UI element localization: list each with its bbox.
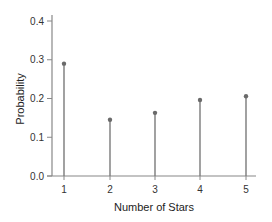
stem-marker xyxy=(244,94,248,98)
x-tick-label: 3 xyxy=(152,184,158,195)
y-tick-label: 0.3 xyxy=(30,54,44,65)
data-stems xyxy=(62,61,248,176)
x-axis-label: Number of Stars xyxy=(114,201,195,213)
x-tick-label: 2 xyxy=(107,184,113,195)
y-tick-label: 0.4 xyxy=(30,16,44,27)
stem-marker xyxy=(153,111,157,115)
y-axis: 0.00.10.20.30.4 xyxy=(30,15,52,182)
x-tick-label: 5 xyxy=(243,184,249,195)
x-tick-label: 4 xyxy=(197,184,203,195)
stem-marker xyxy=(198,98,202,102)
stem-chart: 0.00.10.20.30.4 12345 Number of Stars Pr… xyxy=(0,0,272,222)
y-tick-label: 0.1 xyxy=(30,132,44,143)
y-tick-label: 0.0 xyxy=(30,171,44,182)
x-axis: 12345 xyxy=(47,176,256,195)
x-tick-label: 1 xyxy=(61,184,67,195)
y-tick-label: 0.2 xyxy=(30,93,44,104)
stem-marker xyxy=(108,118,112,122)
stem-marker xyxy=(62,61,66,65)
y-axis-label: Probability xyxy=(14,73,26,125)
